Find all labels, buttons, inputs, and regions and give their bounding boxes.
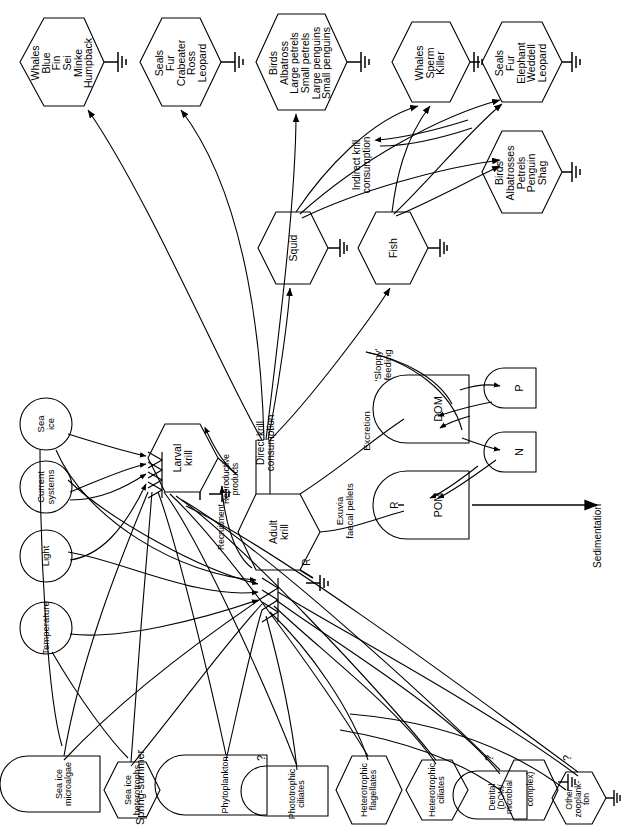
node-label-fish: Fish xyxy=(381,221,405,275)
flow-label-direct-krill-consumption: Direct krill consumption xyxy=(253,395,279,491)
diagram-canvas: Whales Blue Fin Sei Minke Humpback Seals… xyxy=(0,0,624,838)
diagram-vector-layer xyxy=(0,0,624,838)
node-label-p: P xyxy=(512,373,528,403)
node-label-birds-1: Birds Albatross Large petrels Small petr… xyxy=(263,15,337,111)
flow-label-excretion: Excretion xyxy=(360,398,374,464)
node-label-detrital-complex-2: complex) xyxy=(523,763,537,815)
node-label-seals-1: Seals Fur Crabeater Ross Leopard xyxy=(152,23,210,103)
node-label-n: N xyxy=(512,437,528,467)
flow-label-sloppy-feeding: 'Sloppy' feeding xyxy=(370,334,396,396)
node-label-sea-ice-microalgae: Sea ice microalgae xyxy=(52,754,76,814)
node-label-whales-toothed: Whales Sperm Killer xyxy=(409,27,451,99)
flow-label-indirect-krill-consumption: Indirect krill consumption xyxy=(349,117,375,213)
node-label-temperature: Temperature xyxy=(38,598,54,658)
node-label-larval-krill: Larval krill xyxy=(169,430,197,486)
node-label-heterotrophic-ciliates: Heterotrophic ciliates xyxy=(425,759,449,821)
node-label-current-systems: Current systems xyxy=(34,459,58,515)
node-label-whales-baleen: Whales Blue Fin Sei Minke Humpback xyxy=(29,23,95,103)
node-label-adult-krill: Adult krill xyxy=(265,501,293,563)
flow-label-sedimentation: Sedimentation xyxy=(590,491,606,581)
node-label-squid: Squid xyxy=(281,221,305,275)
node-label-sea-ice: Sea ice xyxy=(34,400,58,448)
node-label-light: Light xyxy=(38,532,54,580)
flow-label-spring-summer: Spring-summer xyxy=(133,742,149,832)
node-label-phototrophic-ciliates: Phototrophic ciliates xyxy=(286,764,308,824)
flow-label-exuvia-faecal-pellets: Exuvia faecal pellets xyxy=(332,472,358,550)
node-label-detrital-complex: Detrital (DOM/ microbial xyxy=(486,768,516,826)
node-label-heterotrophic-flagellates: Heterotrophic flagellates xyxy=(357,757,381,823)
node-label-birds-2: Birds Albatrosses Petrels Penguin Shag xyxy=(492,135,550,211)
query-mark-detrital-complex: ? xyxy=(484,752,496,764)
node-label-phytoplankton: Phytoplankton xyxy=(218,753,234,817)
query-mark-phototrophic-ciliates: ? xyxy=(256,752,268,764)
flow-label-reproductive-products: Reproductive products xyxy=(219,444,243,514)
node-label-dom: DOM xyxy=(430,384,448,434)
flow-label-respiration-pom: R xyxy=(388,498,402,512)
node-label-seals-2: Seals Fur Elephant Weddell Leopard xyxy=(492,25,550,101)
flow-label-respiration-adult-krill: R xyxy=(300,555,314,569)
node-label-other-zooplankton: Other zooplank- ton xyxy=(565,771,591,827)
query-mark-other-zooplankton: ? xyxy=(562,752,574,764)
node-label-pom: POM xyxy=(430,480,448,530)
